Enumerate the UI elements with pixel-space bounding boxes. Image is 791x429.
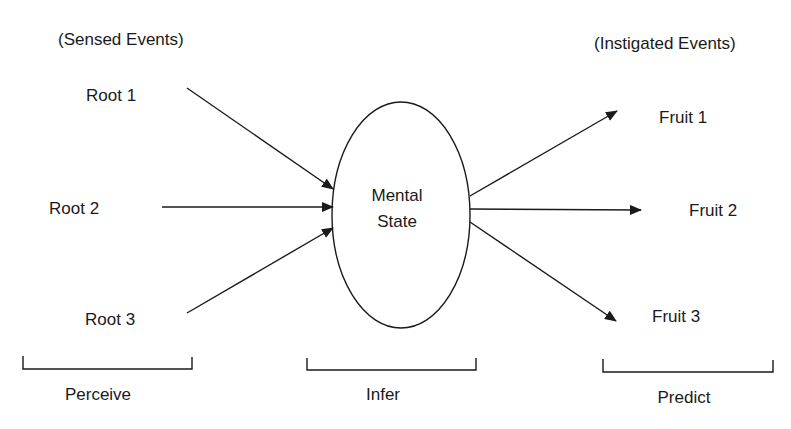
mental-state-label-line1: Mental bbox=[371, 186, 422, 205]
arrow-mental-state-to-fruit-1 bbox=[470, 111, 617, 196]
arrow-mental-state-to-fruit-2 bbox=[470, 209, 641, 210]
sensed-events-header: (Sensed Events) bbox=[58, 30, 184, 49]
infer-label: Infer bbox=[366, 385, 400, 404]
root-2-label: Root 2 bbox=[49, 199, 99, 218]
arrow-mental-state-to-fruit-3 bbox=[470, 222, 616, 321]
mental-state-diagram: (Sensed Events) (Instigated Events) Root… bbox=[0, 0, 791, 429]
mental-state-label-line2: State bbox=[377, 212, 417, 231]
predict-bracket bbox=[603, 359, 773, 372]
infer-bracket bbox=[307, 358, 476, 370]
arrow-root-3-to-mental-state bbox=[187, 228, 333, 313]
root-3-label: Root 3 bbox=[85, 310, 135, 329]
instigated-events-header: (Instigated Events) bbox=[594, 34, 736, 53]
fruit-1-label: Fruit 1 bbox=[659, 108, 707, 127]
fruit-2-label: Fruit 2 bbox=[689, 201, 737, 220]
fruit-3-label: Fruit 3 bbox=[652, 307, 700, 326]
root-1-label: Root 1 bbox=[86, 86, 136, 105]
perceive-label: Perceive bbox=[65, 385, 131, 404]
arrow-root-1-to-mental-state bbox=[187, 88, 333, 189]
perceive-bracket bbox=[23, 356, 192, 369]
predict-label: Predict bbox=[658, 388, 711, 407]
